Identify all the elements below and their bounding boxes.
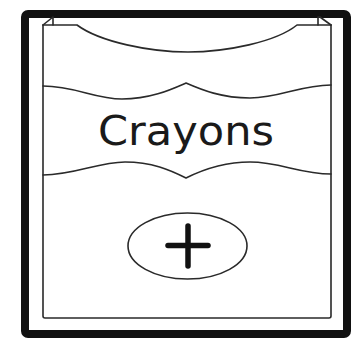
box-lid-edge [43,25,331,52]
tile-title: Crayons [98,107,274,155]
add-button[interactable] [128,213,247,279]
left-flap [43,17,53,25]
label-bottom-wave [43,162,331,178]
right-flap [318,17,331,25]
crayons-tile[interactable]: Crayons [0,0,352,363]
label-top-wave [43,83,331,99]
outer-frame [25,14,347,334]
